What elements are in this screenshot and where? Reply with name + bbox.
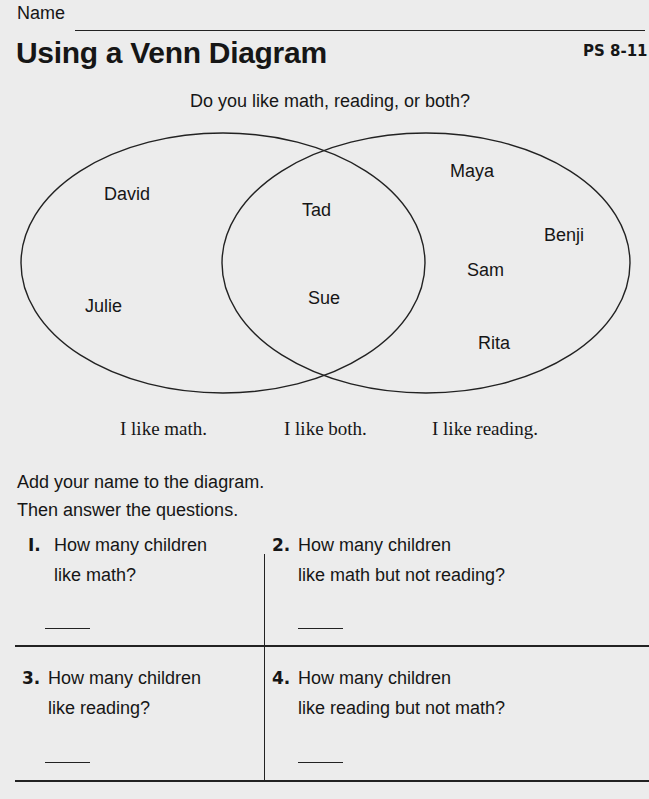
question-2: 2.How many children like math but not re… bbox=[272, 530, 505, 590]
label-math: I like math. bbox=[120, 418, 207, 440]
grid-vertical-divider bbox=[264, 554, 265, 782]
question-text-line2: like math? bbox=[28, 560, 207, 590]
question-number: I. bbox=[28, 530, 54, 560]
name-sam: Sam bbox=[467, 260, 504, 281]
name-rita: Rita bbox=[478, 333, 510, 354]
math-set-ellipse bbox=[21, 133, 425, 393]
question-number: 3. bbox=[22, 663, 48, 693]
instruction-line-2: Then answer the questions. bbox=[17, 500, 238, 521]
name-maya: Maya bbox=[450, 161, 494, 182]
question-text-line1: How many children bbox=[48, 668, 201, 688]
question-text-line1: How many children bbox=[298, 535, 451, 555]
answer-blank-2[interactable] bbox=[298, 628, 343, 629]
question-text-line2: like reading? bbox=[22, 693, 201, 723]
grid-bottom-divider bbox=[15, 780, 649, 782]
answer-blank-4[interactable] bbox=[298, 762, 343, 763]
question-1: I.How many children like math? bbox=[28, 530, 207, 590]
question-4: 4.How many children like reading but not… bbox=[272, 663, 505, 723]
reading-set-ellipse bbox=[222, 133, 630, 393]
question-number: 4. bbox=[272, 663, 298, 693]
answer-blank-1[interactable] bbox=[45, 628, 90, 629]
question-text-line2: like reading but not math? bbox=[272, 693, 505, 723]
name-julie: Julie bbox=[85, 296, 122, 317]
instruction-line-1: Add your name to the diagram. bbox=[17, 472, 264, 493]
name-sue: Sue bbox=[308, 288, 340, 309]
answer-blank-3[interactable] bbox=[45, 762, 90, 763]
question-text-line1: How many children bbox=[54, 535, 207, 555]
name-benji: Benji bbox=[544, 225, 584, 246]
question-3: 3.How many children like reading? bbox=[22, 663, 201, 723]
name-david: David bbox=[104, 184, 150, 205]
label-both: I like both. bbox=[284, 418, 367, 440]
question-text-line2: like math but not reading? bbox=[272, 560, 505, 590]
question-number: 2. bbox=[272, 530, 298, 560]
label-reading: I like reading. bbox=[432, 418, 538, 440]
grid-middle-divider bbox=[15, 645, 649, 647]
question-text-line1: How many children bbox=[298, 668, 451, 688]
name-tad: Tad bbox=[302, 200, 331, 221]
